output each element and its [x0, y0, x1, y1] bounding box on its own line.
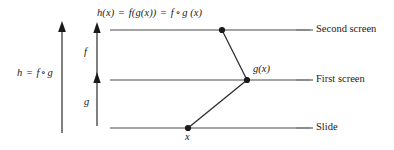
- node-intermediate-point: [244, 77, 250, 83]
- ray-segment-lower: [188, 80, 247, 128]
- composite-function-label: h(x) = f(g(x)) = f∘g (x): [97, 8, 202, 19]
- g-arrow: [93, 72, 100, 126]
- ray-segment-upper: [222, 30, 247, 80]
- arrow-label-composite-equals: =: [25, 67, 34, 78]
- ring-operator-icon: ∘: [174, 7, 182, 18]
- ray-nodes: [185, 27, 250, 131]
- composite-label-g-arg: (x): [190, 7, 202, 18]
- f-arrow: [93, 22, 100, 78]
- node-image-point: [219, 27, 225, 33]
- ring-operator-icon-2: ∘: [39, 67, 47, 78]
- composite-label-g: g: [182, 7, 187, 18]
- arrow-label-composite-h: h: [17, 67, 22, 78]
- composite-function-ray-diagram: h(x) = f(g(x)) = f∘g (x) g(x) x f g h = …: [0, 0, 394, 150]
- composite-arrow-head: [58, 21, 66, 32]
- arrow-label-g: g: [84, 97, 89, 108]
- screen-label-second-screen: Second screen: [316, 24, 376, 35]
- arrow-label-composite: h = f∘g: [17, 68, 53, 79]
- composite-label-h-arg: (x): [102, 7, 114, 18]
- g-arrow-head: [93, 72, 100, 83]
- f-arrow-head: [93, 22, 100, 33]
- composite-arrow: [58, 21, 66, 133]
- screen-label-first-screen: First screen: [316, 74, 365, 85]
- screen-label-slide: Slide: [316, 122, 338, 133]
- screen-leader-lines: [296, 30, 313, 128]
- composite-label-equals-2: =: [159, 7, 168, 18]
- node-label-gx-arg: (x): [258, 63, 270, 74]
- composite-label-equals-1: =: [117, 7, 126, 18]
- arrow-label-f: f: [84, 47, 87, 58]
- node-label-x: x: [185, 132, 190, 143]
- arrow-label-composite-g: g: [48, 67, 53, 78]
- node-label-gx: g(x): [253, 64, 270, 75]
- composite-label-f-of-gx: f(g(x)): [129, 7, 157, 18]
- screen-lines: [110, 30, 310, 128]
- ray-path: [188, 30, 247, 128]
